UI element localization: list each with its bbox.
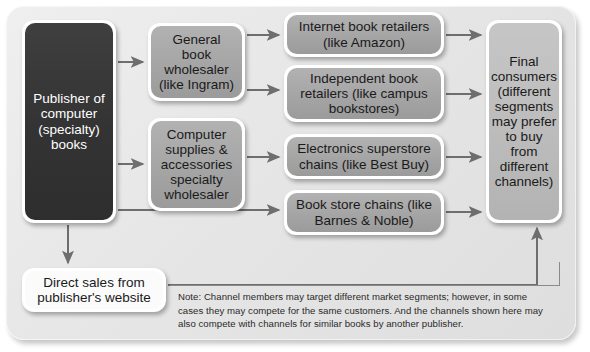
node-publisher-label: Publisher of computer (specialty) books: [25, 23, 113, 220]
node-independent-book-retailers[interactable]: Independent book retailers (like campus …: [284, 65, 444, 122]
diagram-canvas: Publisher of computer (specialty) books …: [0, 0, 590, 352]
node-general-book-wholesaler[interactable]: General book wholesaler (like Ingram): [148, 23, 245, 101]
node-book-store-chains[interactable]: Book store chains (like Barnes & Noble): [284, 190, 444, 235]
node-computer-supplies-specialty-wholesaler[interactable]: Computer supplies & accessories specialt…: [148, 118, 245, 211]
node-computer-supplies-specialty-wholesaler-label: Computer supplies & accessories specialt…: [151, 121, 242, 208]
node-general-book-wholesaler-label: General book wholesaler (like Ingram): [151, 26, 242, 98]
connector-direct-sales-to-final-consumers: [168, 228, 537, 285]
node-direct-sales-website[interactable]: Direct sales from publisher's website: [22, 268, 166, 312]
node-electronics-superstore-chains-label: Electronics superstore chains (like Best…: [287, 137, 441, 176]
node-independent-book-retailers-label: Independent book retailers (like campus …: [287, 68, 441, 119]
node-final-consumers-label: Final consumers (different segments may …: [489, 23, 559, 220]
node-internet-book-retailers[interactable]: Internet book retailers (like Amazon): [284, 12, 444, 57]
node-electronics-superstore-chains[interactable]: Electronics superstore chains (like Best…: [284, 134, 444, 179]
node-publisher[interactable]: Publisher of computer (specialty) books: [22, 20, 116, 223]
node-final-consumers[interactable]: Final consumers (different segments may …: [486, 20, 562, 223]
node-direct-sales-website-label: Direct sales from publisher's website: [25, 271, 163, 309]
note-divider-right: [559, 262, 560, 286]
note-divider: [170, 285, 560, 286]
node-book-store-chains-label: Book store chains (like Barnes & Noble): [287, 193, 441, 232]
diagram-note: Note: Channel members may target differe…: [178, 290, 554, 331]
node-internet-book-retailers-label: Internet book retailers (like Amazon): [287, 15, 441, 54]
